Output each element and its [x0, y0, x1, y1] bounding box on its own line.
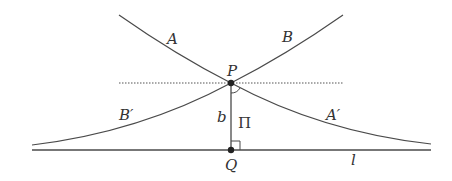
label-b: B — [281, 28, 293, 46]
hyperbolic-parallel-diagram: A B P B′ b Π A′ Q l — [0, 0, 452, 181]
label-perpendicular-b: b — [217, 108, 227, 126]
label-a: A — [165, 30, 178, 48]
point-q — [228, 147, 234, 153]
label-q: Q — [225, 156, 237, 174]
curve-a — [119, 15, 231, 83]
angle-arc-pi — [231, 88, 240, 93]
curve-b — [231, 15, 343, 83]
point-p — [228, 80, 234, 86]
label-p: P — [226, 62, 238, 80]
label-a-prime: A′ — [324, 106, 341, 124]
label-b-prime: B′ — [118, 106, 134, 124]
label-angle-pi: Π — [238, 114, 251, 132]
label-l: l — [351, 151, 356, 169]
